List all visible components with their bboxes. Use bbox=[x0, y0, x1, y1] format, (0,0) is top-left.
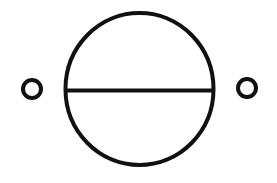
right-terminal-icon bbox=[238, 79, 256, 97]
left-terminal-icon bbox=[23, 80, 41, 98]
symbol-diagram bbox=[0, 0, 277, 183]
